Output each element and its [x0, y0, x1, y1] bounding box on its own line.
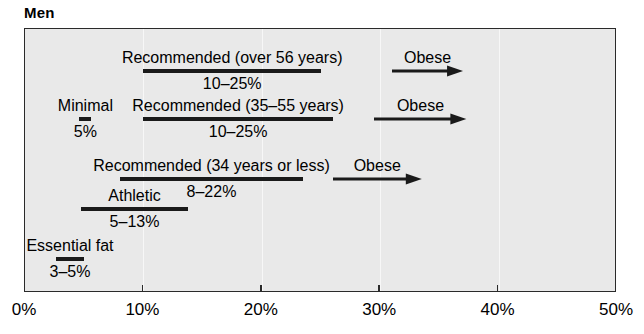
range-bar	[56, 257, 84, 261]
range-label: Recommended (34 years or less)	[93, 157, 330, 175]
x-tick-label: 0%	[12, 300, 37, 320]
range-label: Minimal	[58, 97, 113, 115]
range-bar	[143, 69, 321, 73]
range-bar	[81, 207, 189, 211]
x-tick-label: 50%	[599, 300, 633, 320]
range-label: Essential fat	[26, 237, 113, 255]
range-value: 10–25%	[203, 75, 262, 93]
chart-root: Men Recommended (over 56 years)10–25%Rec…	[0, 0, 644, 334]
range-bar	[79, 117, 91, 121]
x-tick-40%	[497, 285, 499, 292]
x-tick-20%	[260, 285, 262, 292]
range-bar	[120, 177, 304, 181]
x-tick-label: 40%	[481, 300, 515, 320]
range-value: 5–13%	[110, 213, 160, 231]
x-tick-10%	[142, 285, 144, 292]
range-value: 10–25%	[209, 123, 268, 141]
plot-area: Recommended (over 56 years)10–25%Recomme…	[24, 28, 616, 292]
x-tick-30%	[378, 285, 380, 292]
arrow-label: Obese	[397, 97, 444, 115]
range-value: 8–22%	[187, 183, 237, 201]
range-label: Recommended (over 56 years)	[122, 49, 343, 67]
x-tick-label: 20%	[244, 300, 278, 320]
range-label: Recommended (35–55 years)	[132, 97, 344, 115]
range-value: 5%	[74, 123, 97, 141]
arrow-label: Obese	[404, 49, 451, 67]
range-bar	[143, 117, 332, 121]
range-label: Athletic	[108, 187, 160, 205]
x-tick-label: 10%	[125, 300, 159, 320]
range-value: 3–5%	[50, 263, 91, 281]
arrow-label: Obese	[354, 157, 401, 175]
data-series-layer: Recommended (over 56 years)10–25%Recomme…	[25, 29, 615, 291]
page-title: Men	[24, 4, 55, 21]
x-tick-label: 30%	[362, 300, 396, 320]
